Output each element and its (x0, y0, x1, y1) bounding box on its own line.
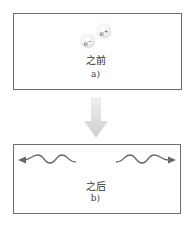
photon-left-wave-icon (18, 152, 78, 168)
sublabel-b: b) (0, 193, 191, 203)
positron-charge: + (104, 28, 108, 34)
electron-charge: − (88, 38, 92, 44)
sublabel-a: a) (0, 69, 191, 79)
caption-before: 之前 (0, 52, 191, 67)
photon-right-wave-icon (116, 152, 176, 168)
down-arrow-icon (83, 97, 109, 139)
positron-particle: e+ (97, 24, 111, 38)
caption-after: 之后 (0, 178, 191, 193)
electron-particle: e− (81, 34, 95, 48)
